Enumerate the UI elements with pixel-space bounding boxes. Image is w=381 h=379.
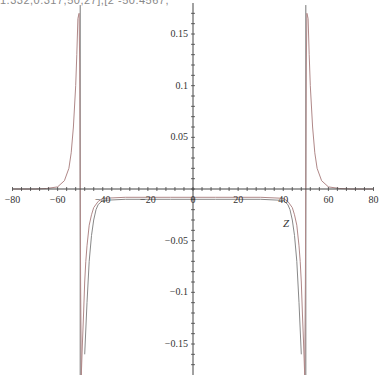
chart-axes: −80−60−40−20020406080−0.15−0.1−0.050.050… — [5, 3, 379, 375]
x-tick-label: 80 — [369, 194, 379, 205]
x-tick-label: 20 — [233, 194, 243, 205]
x-tick-label: −80 — [5, 194, 21, 205]
x-tick-label: 60 — [323, 194, 333, 205]
x-tick-label: 40 — [278, 194, 288, 205]
x-tick-label: −60 — [50, 194, 66, 205]
x-tick-label: −40 — [95, 194, 111, 205]
x-tick-label: 0 — [191, 194, 196, 205]
x-tick-label: −20 — [140, 194, 156, 205]
line-chart: −80−60−40−20020406080−0.15−0.1−0.050.050… — [0, 0, 381, 379]
y-tick-label: 0.1 — [176, 80, 189, 91]
y-tick-label: −0.05 — [165, 235, 188, 246]
y-tick-label: 0.05 — [171, 131, 189, 142]
y-tick-label: −0.15 — [165, 338, 188, 349]
x-axis-label: Z — [283, 217, 290, 229]
y-tick-label: −0.1 — [170, 286, 188, 297]
y-tick-label: 0.15 — [171, 28, 189, 39]
